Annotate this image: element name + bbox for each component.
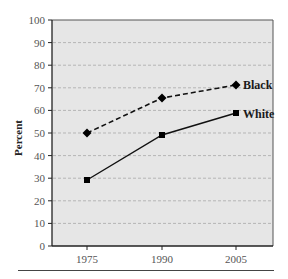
series-label-black: Black — [243, 78, 273, 92]
y-tick-label: 100 — [29, 14, 46, 26]
series-label-white: White — [243, 107, 275, 121]
y-tick-label: 0 — [40, 240, 46, 252]
square-marker — [159, 132, 165, 138]
y-tick-label: 80 — [34, 59, 46, 71]
y-tick-label: 50 — [34, 127, 46, 139]
y-tick-label: 60 — [34, 104, 46, 116]
line-chart: 0 10 20 30 40 50 60 70 80 90 100 1975 19… — [0, 0, 288, 279]
y-tick-label: 10 — [34, 217, 46, 229]
square-marker — [84, 177, 90, 183]
x-tick-label: 2005 — [225, 253, 248, 265]
x-tick-labels: 1975 1990 2005 — [76, 253, 248, 265]
y-axis-title: Percent — [12, 120, 24, 156]
y-tick-labels: 0 10 20 30 40 50 60 70 80 90 100 — [29, 14, 46, 252]
y-tick-label: 70 — [34, 82, 46, 94]
y-tick-label: 40 — [34, 150, 46, 162]
y-tick-label: 30 — [34, 172, 46, 184]
bottom-rule — [18, 270, 274, 271]
square-marker — [233, 110, 239, 116]
y-tick-label: 90 — [34, 37, 46, 49]
y-tick-label: 20 — [34, 195, 46, 207]
x-tick-label: 1990 — [151, 253, 174, 265]
x-tick-label: 1975 — [76, 253, 99, 265]
